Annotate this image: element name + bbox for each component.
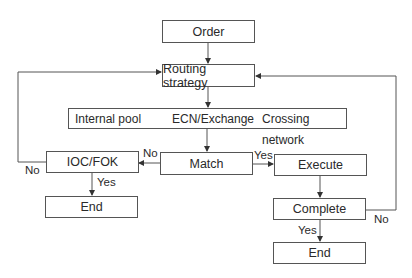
source-ecn-exchange: ECN/Exchange <box>172 109 254 130</box>
routing-strategy-node: Routing strategy <box>162 64 255 87</box>
complete-no-label: No <box>374 213 389 225</box>
ioc-yes-label: Yes <box>97 176 116 188</box>
end-right-label: End <box>308 246 330 260</box>
complete-yes-label: Yes <box>298 224 317 236</box>
execute-label: Execute <box>298 158 343 172</box>
routing-strategy-label: Routing strategy <box>163 62 254 90</box>
source-crossing-network: Crossing network <box>262 109 346 151</box>
match-node: Match <box>160 152 253 175</box>
source-internal-pool: Internal pool <box>75 109 141 130</box>
match-yes-label: Yes <box>254 149 273 161</box>
match-label: Match <box>189 157 223 171</box>
match-no-label: No <box>143 147 158 159</box>
ioc-fok-node: IOC/FOK <box>46 151 139 173</box>
end-left-label: End <box>80 200 102 214</box>
execute-node: Execute <box>274 154 367 176</box>
complete-node: Complete <box>273 198 366 220</box>
ioc-fok-label: IOC/FOK <box>67 155 118 169</box>
order-node: Order <box>162 20 255 43</box>
order-label: Order <box>193 25 225 39</box>
ioc-no-label: No <box>25 164 40 176</box>
end-left-node: End <box>45 196 138 218</box>
venue-sources-node: Internal pool ECN/Exchange Crossing netw… <box>68 108 347 129</box>
complete-label: Complete <box>293 202 347 216</box>
end-right-node: End <box>273 242 366 264</box>
